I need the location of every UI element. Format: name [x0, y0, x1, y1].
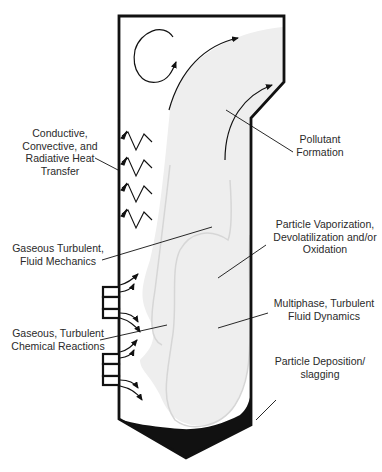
label-particle-vaporization: Particle Vaporization, Devolatilization … — [265, 218, 382, 256]
label-pollutant-formation: Pollutant Formation — [290, 133, 350, 158]
label-heat-transfer: Conductive, Convective, and Radiative He… — [20, 127, 100, 177]
burner-jet-arrows — [120, 274, 142, 400]
heat-transfer-zigzags — [121, 131, 152, 228]
label-particle-deposition: Particle Deposition/ slagging — [270, 355, 370, 380]
burner-lower — [103, 354, 119, 385]
label-multiphase-dynamics: Multiphase, Turbulent Fluid Dynamics — [268, 297, 380, 322]
recirculation-arrow — [134, 30, 176, 83]
label-fluid-mechanics: Gaseous Turbulent, Fluid Mechanics — [8, 242, 108, 267]
label-chemical-reactions: Gaseous, Turbulent Chemical Reactions — [8, 327, 108, 352]
flame-plume — [140, 27, 283, 426]
burner-upper — [103, 287, 119, 318]
